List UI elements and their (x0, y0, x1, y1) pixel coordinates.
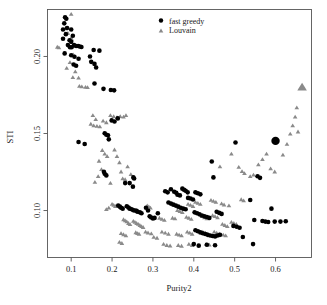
data-point (185, 190, 190, 195)
data-point (120, 206, 125, 211)
data-point (94, 65, 99, 70)
data-point (248, 198, 253, 203)
data-point (64, 16, 69, 21)
x-tick-label: 0.2 (107, 264, 118, 274)
data-point (207, 216, 212, 221)
legend-label-louvain: Louvain (169, 26, 196, 35)
data-point (106, 133, 111, 138)
legend-label-fast-greedy: fast greedy (169, 17, 204, 26)
data-point (269, 206, 274, 211)
data-point (123, 181, 128, 186)
data-point (272, 219, 277, 224)
x-tick-label: 0.1 (66, 264, 77, 274)
data-point (69, 45, 74, 50)
data-point (213, 243, 218, 248)
data-point (97, 48, 102, 53)
x-tick-label: 0.3 (148, 264, 159, 274)
data-point (233, 140, 238, 145)
data-point (251, 242, 256, 247)
data-point (191, 197, 196, 202)
data-point-highlight (271, 137, 279, 145)
data-point (65, 26, 70, 31)
data-point (104, 173, 109, 178)
data-point (192, 242, 197, 247)
data-point (219, 212, 224, 217)
data-point (152, 216, 157, 221)
data-point (62, 51, 67, 56)
data-point (88, 54, 93, 59)
x-axis-title: Purity2 (166, 283, 191, 293)
y-tick-label: 0.20 (32, 49, 42, 64)
data-point (198, 192, 203, 197)
data-point (132, 176, 137, 181)
data-point (69, 27, 74, 32)
data-point (76, 140, 81, 145)
data-point (62, 21, 67, 26)
data-point (196, 243, 201, 248)
y-tick-label: 0.10 (32, 203, 42, 218)
data-point (74, 63, 79, 68)
data-point (218, 233, 223, 238)
y-tick-label: 0.15 (32, 126, 42, 141)
data-point (82, 142, 87, 147)
data-point (211, 175, 216, 180)
figure-background (0, 0, 327, 305)
data-point (92, 81, 97, 86)
data-point (79, 45, 84, 50)
data-point (107, 137, 112, 142)
data-point (183, 207, 188, 212)
data-point (252, 218, 257, 223)
data-point (278, 219, 283, 224)
data-point (205, 242, 210, 247)
data-point (283, 219, 288, 224)
x-tick-label: 0.6 (270, 264, 281, 274)
data-point (241, 235, 246, 240)
data-point (112, 88, 117, 93)
plot-canvas: 0.10.20.30.40.50.6 0.100.150.20 Purity2 … (0, 0, 327, 305)
data-point (209, 159, 214, 164)
data-point (76, 56, 81, 61)
data-point (156, 211, 161, 216)
data-point (127, 181, 132, 186)
y-axis-title: STI (5, 130, 15, 143)
data-point (178, 193, 183, 198)
data-point (91, 48, 96, 53)
data-point (139, 211, 144, 216)
data-point (266, 220, 271, 225)
data-point (71, 33, 76, 38)
data-point (101, 87, 106, 92)
scatter-plot-figure: 0.10.20.30.40.50.6 0.100.150.20 Purity2 … (0, 0, 327, 305)
data-point (72, 54, 77, 59)
data-point (64, 32, 69, 37)
data-point (131, 184, 136, 189)
x-tick-label: 0.4 (188, 264, 199, 274)
data-point (61, 27, 66, 32)
data-point (61, 36, 66, 41)
x-tick-label: 0.5 (229, 264, 240, 274)
data-point (115, 116, 120, 121)
legend-marker-fast-greedy (159, 18, 163, 22)
data-point (146, 208, 151, 213)
data-point (237, 225, 242, 230)
data-point (258, 176, 263, 181)
